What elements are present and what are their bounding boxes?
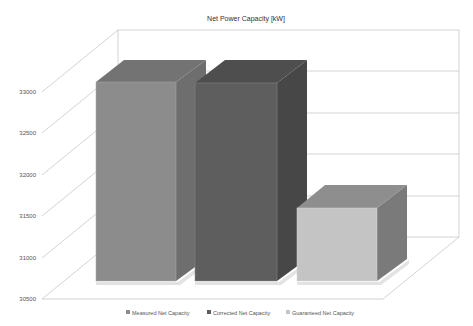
legend-label: Corrected Net Capacity <box>213 310 270 316</box>
bar-corrected-net-capacity[interactable] <box>195 60 307 281</box>
y-tick-label: 31500 <box>19 213 36 219</box>
legend-item-corrected[interactable]: Corrected Net Capacity <box>207 310 270 316</box>
legend-label: Measured Net Capacity <box>132 310 190 316</box>
legend-item-guaranteed[interactable]: Guaranteed Net Capacity <box>286 310 354 316</box>
chart-canvas: Net Power Capacity [kW] 33000 32500 3200… <box>0 0 473 326</box>
y-axis: 33000 32500 32000 31500 31000 30500 <box>19 89 36 302</box>
y-tick-label: 33000 <box>19 89 36 95</box>
legend: Measured Net Capacity Corrected Net Capa… <box>126 310 354 316</box>
bar-guaranteed-net-capacity[interactable] <box>297 185 407 281</box>
y-tick-label: 32000 <box>19 172 36 178</box>
legend-label: Guaranteed Net Capacity <box>292 310 354 316</box>
y-tick-label: 31000 <box>19 255 36 261</box>
legend-swatch-guaranteed <box>286 310 290 314</box>
bar-measured-net-capacity[interactable] <box>96 60 206 281</box>
legend-item-measured[interactable]: Measured Net Capacity <box>126 310 190 316</box>
y-tick-label: 32500 <box>19 130 36 136</box>
chart-title: Net Power Capacity [kW] <box>207 15 285 23</box>
legend-swatch-measured <box>126 310 130 314</box>
legend-swatch-corrected <box>207 310 211 314</box>
y-tick-label: 30500 <box>19 296 36 302</box>
